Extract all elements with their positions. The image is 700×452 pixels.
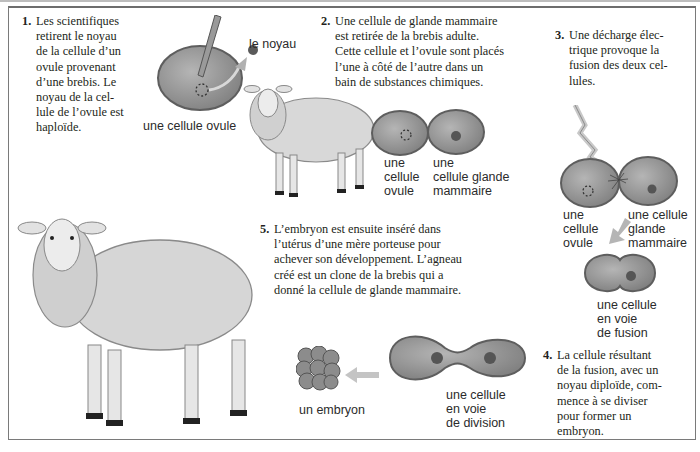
adjacent-cells-illustration (370, 108, 490, 158)
dividing-cell-illustration (385, 328, 530, 388)
step-1: 1. Les scientifiques retirent le noyau d… (22, 14, 162, 136)
nucleus-icon (431, 352, 443, 364)
nucleus-icon (648, 185, 657, 194)
electric-fusion-illustration (560, 105, 680, 210)
step-3: 3. Une décharge élec- trique provoque la… (555, 28, 690, 89)
left-arrow-icon (345, 366, 379, 384)
mammary-cell-shape (619, 157, 677, 205)
fusing-cell-illustration (575, 248, 665, 298)
step-5: 5. L’embryon est ensuite inséré dans l’u… (260, 222, 500, 298)
mammary-label-step3: une cellule glande mammaire (628, 208, 688, 250)
dividing-cell-label: une cellule en voie de division (446, 388, 506, 430)
clone-sheep-illustration (10, 205, 255, 435)
ovule-cell-shape (561, 159, 619, 207)
step-2-number: 2. (321, 14, 330, 29)
step-1-text: Les scientifiques retirent le noyau de l… (22, 14, 162, 136)
step-5-text: L’embryon est ensuite inséré dans l’utér… (260, 222, 500, 298)
down-arrow-icon (605, 218, 635, 248)
nucleus-icon (451, 131, 461, 141)
step-5-number: 5. (260, 222, 269, 237)
fusing-cell-label: une cellule en voie de fusion (597, 298, 657, 340)
nucleus-icon (626, 271, 636, 281)
ovule-label-step1: une cellule ovule (143, 119, 236, 133)
top-rule (0, 0, 700, 2)
step-3-number: 3. (555, 28, 564, 43)
ovule-label-step2: une cellule ovule (384, 156, 419, 198)
ovule-cell-shape (372, 111, 428, 155)
step-3-text: Une décharge élec- trique provoque la fu… (555, 28, 690, 89)
ovule-cell-shape (158, 46, 242, 110)
step-4-text: La cellule résultant de la fusion, avec … (543, 348, 693, 439)
mammary-label-step2: une cellule glande mammaire (433, 156, 509, 198)
step-4-number: 4. (543, 348, 552, 363)
embryo-illustration (296, 346, 341, 391)
donor-sheep-illustration (238, 75, 378, 200)
nucleus-label: le noyau (249, 37, 296, 51)
embryo-label: un embryon (299, 403, 365, 417)
step-1-number: 1. (22, 14, 31, 29)
ovule-label-step3: une cellule ovule (563, 208, 598, 250)
step-4: 4. La cellule résultant de la fusion, av… (543, 348, 693, 439)
nucleus-icon (484, 352, 496, 364)
